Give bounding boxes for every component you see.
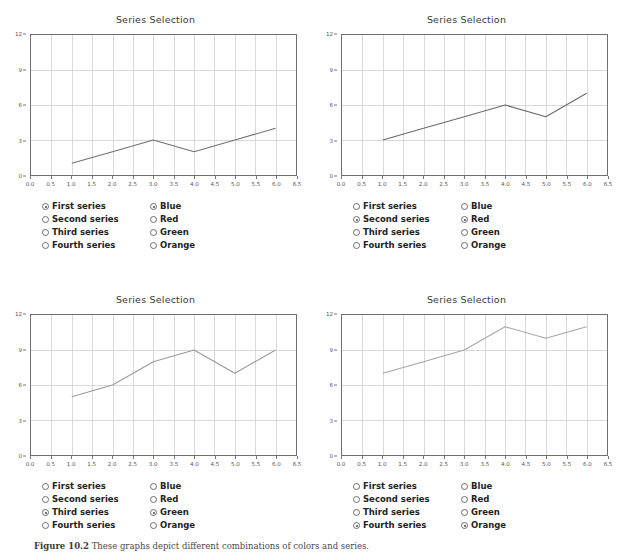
radio-unchecked-icon[interactable] [150, 242, 157, 249]
radio-unchecked-icon[interactable] [42, 216, 49, 223]
radio-unchecked-icon[interactable] [42, 496, 49, 503]
radio-series-fourth-series[interactable]: Fourth series [353, 519, 461, 532]
chart-panel: Series Selection0369120.00.51.01.52.02.5… [0, 280, 311, 530]
radio-color-orange[interactable]: Orange [461, 519, 561, 532]
radio-series-first-series[interactable]: First series [353, 200, 461, 213]
radio-unchecked-icon[interactable] [461, 509, 468, 516]
radio-checked-icon[interactable] [150, 509, 157, 516]
radio-series-third-series[interactable]: Third series [42, 226, 150, 239]
radio-unchecked-icon[interactable] [461, 496, 468, 503]
radio-unchecked-icon[interactable] [353, 509, 360, 516]
x-axis-tick-mark [505, 176, 506, 179]
radio-label: Blue [471, 480, 492, 493]
radio-series-third-series[interactable]: Third series [353, 506, 461, 519]
radio-color-green[interactable]: Green [461, 226, 561, 239]
radio-unchecked-icon[interactable] [353, 496, 360, 503]
radio-checked-icon[interactable] [42, 509, 49, 516]
radio-label: Second series [52, 493, 119, 506]
radio-series-first-series[interactable]: First series [42, 480, 150, 493]
series-line [342, 35, 607, 175]
radio-unchecked-icon[interactable] [353, 203, 360, 210]
radio-color-red[interactable]: Red [150, 493, 250, 506]
x-axis-tick-label: 2.5 [128, 461, 137, 467]
y-axis-tick-label: 6 [330, 102, 334, 108]
radio-unchecked-icon[interactable] [461, 483, 468, 490]
radio-series-first-series[interactable]: First series [353, 480, 461, 493]
radio-series-second-series[interactable]: Second series [353, 493, 461, 506]
radio-label: Green [160, 226, 189, 239]
radio-unchecked-icon[interactable] [42, 242, 49, 249]
x-axis-tick-label: 0.5 [46, 181, 55, 187]
data-series-polyline [383, 327, 587, 374]
radio-color-blue[interactable]: Blue [461, 480, 561, 493]
radio-color-red[interactable]: Red [150, 213, 250, 226]
radio-checked-icon[interactable] [353, 216, 360, 223]
y-axis-tick-label: 0 [330, 173, 334, 179]
radio-color-orange[interactable]: Orange [461, 239, 561, 252]
x-axis-tick-mark [112, 176, 113, 179]
x-axis-tick-label: 2.0 [108, 461, 117, 467]
radio-unchecked-icon[interactable] [150, 483, 157, 490]
radio-series-fourth-series[interactable]: Fourth series [42, 239, 150, 252]
y-axis-tick-label: 0 [19, 453, 23, 459]
radio-series-fourth-series[interactable]: Fourth series [42, 519, 150, 532]
radio-checked-icon[interactable] [461, 216, 468, 223]
radio-unchecked-icon[interactable] [42, 483, 49, 490]
x-axis-tick-label: 6.0 [583, 181, 592, 187]
radio-unchecked-icon[interactable] [461, 242, 468, 249]
x-axis-tick-label: 3.5 [169, 461, 178, 467]
radio-checked-icon[interactable] [150, 203, 157, 210]
radio-color-green[interactable]: Green [150, 226, 250, 239]
x-axis-tick-label: 5.0 [542, 461, 551, 467]
y-axis-tick-label: 6 [19, 102, 23, 108]
radio-unchecked-icon[interactable] [150, 496, 157, 503]
x-axis-tick-mark [276, 456, 277, 459]
radio-checked-icon[interactable] [461, 522, 468, 529]
radio-unchecked-icon[interactable] [42, 522, 49, 529]
radio-checked-icon[interactable] [42, 203, 49, 210]
radio-color-blue[interactable]: Blue [461, 200, 561, 213]
radio-color-red[interactable]: Red [461, 213, 561, 226]
x-axis-tick-mark [30, 456, 31, 459]
radio-unchecked-icon[interactable] [150, 229, 157, 236]
radio-checked-icon[interactable] [353, 522, 360, 529]
radio-unchecked-icon[interactable] [461, 203, 468, 210]
radio-series-third-series[interactable]: Third series [42, 506, 150, 519]
radio-unchecked-icon[interactable] [353, 229, 360, 236]
plot-area [341, 314, 608, 456]
radio-color-green[interactable]: Green [461, 506, 561, 519]
radio-label: First series [363, 200, 417, 213]
y-axis-tick-label: 9 [19, 347, 23, 353]
radio-label: Blue [160, 480, 181, 493]
radio-color-green[interactable]: Green [150, 506, 250, 519]
radio-series-fourth-series[interactable]: Fourth series [353, 239, 461, 252]
radio-series-second-series[interactable]: Second series [353, 213, 461, 226]
x-axis-tick-label: 4.5 [210, 181, 219, 187]
x-axis-tick-mark [71, 456, 72, 459]
x-axis-tick-label: 2.5 [439, 181, 448, 187]
radio-series-first-series[interactable]: First series [42, 200, 150, 213]
radio-color-red[interactable]: Red [461, 493, 561, 506]
radio-series-third-series[interactable]: Third series [353, 226, 461, 239]
radio-color-orange[interactable]: Orange [150, 239, 250, 252]
x-axis-tick-label: 3.5 [169, 181, 178, 187]
radio-series-second-series[interactable]: Second series [42, 213, 150, 226]
x-axis-tick-label: 4.5 [521, 461, 530, 467]
radio-color-blue[interactable]: Blue [150, 200, 250, 213]
x-axis-tick-mark [194, 176, 195, 179]
x-axis-tick-mark [444, 456, 445, 459]
radio-label: Red [160, 213, 178, 226]
radio-unchecked-icon[interactable] [150, 216, 157, 223]
figure-panel-grid: Series Selection0369120.00.51.01.52.02.5… [0, 0, 622, 530]
radio-color-orange[interactable]: Orange [150, 519, 250, 532]
x-axis-tick-label: 0.0 [337, 461, 346, 467]
radio-options-block: First seriesBlueSecond seriesRedThird se… [353, 200, 593, 252]
radio-series-second-series[interactable]: Second series [42, 493, 150, 506]
radio-unchecked-icon[interactable] [353, 483, 360, 490]
radio-label: Fourth series [52, 239, 115, 252]
radio-color-blue[interactable]: Blue [150, 480, 250, 493]
radio-unchecked-icon[interactable] [150, 522, 157, 529]
radio-unchecked-icon[interactable] [42, 229, 49, 236]
radio-unchecked-icon[interactable] [461, 229, 468, 236]
radio-unchecked-icon[interactable] [353, 242, 360, 249]
